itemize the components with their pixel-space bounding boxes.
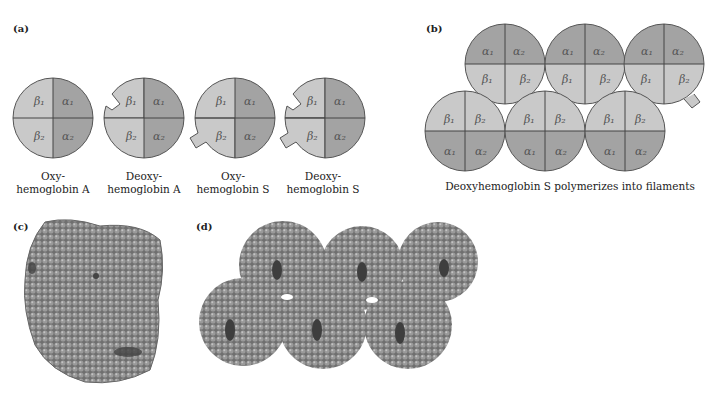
svg-text:β₁: β₁ <box>603 113 615 126</box>
svg-text:α₁: α₁ <box>641 45 653 58</box>
svg-text:α₁: α₁ <box>62 95 74 108</box>
svg-text:α₁: α₁ <box>562 45 574 58</box>
deoxyhemoglobin-a-diagram: β₁α₁ β₂α₂ <box>104 78 184 158</box>
svg-text:α₂: α₂ <box>62 130 74 143</box>
svg-text:α₂: α₂ <box>244 130 256 143</box>
hemoglobin-diagram: β₁α₁ β₂α₂ β₁α₁ β₂α₂ β₁α₁ β₂α₂ β₁α₁ β₂α₂ <box>0 0 720 401</box>
space-filling-model-fiber <box>199 221 478 369</box>
svg-text:β₁: β₁ <box>523 113 535 126</box>
svg-text:β₁: β₁ <box>443 113 455 126</box>
svg-text:α₁: α₁ <box>334 95 346 108</box>
deoxyhemoglobin-s-diagram: β₁α₁ β₂α₂ <box>280 78 365 158</box>
svg-text:α₁: α₁ <box>444 145 456 158</box>
svg-text:α₂: α₂ <box>555 145 567 158</box>
svg-text:β₂: β₂ <box>599 73 611 86</box>
svg-text:α₁: α₁ <box>482 45 494 58</box>
svg-text:β₁: β₁ <box>215 95 227 108</box>
caption-filament: Deoxyhemoglobin S polymerizes into filam… <box>440 180 700 193</box>
oxyhemoglobin-s-diagram: β₁α₁ β₂α₂ <box>190 78 275 158</box>
svg-text:β₁: β₁ <box>561 73 573 86</box>
svg-text:β₂: β₂ <box>634 113 646 126</box>
svg-text:β₂: β₂ <box>678 73 690 86</box>
svg-text:α₂: α₂ <box>635 145 647 158</box>
svg-text:β₁: β₁ <box>33 95 45 108</box>
svg-text:β₂: β₂ <box>33 130 45 143</box>
caption-oxyhemoglobin-a: Oxy- hemoglobin A <box>8 170 98 196</box>
svg-text:β₂: β₂ <box>125 130 137 143</box>
caption-oxyhemoglobin-s: Oxy- hemoglobin S <box>188 170 278 196</box>
svg-text:α₂: α₂ <box>153 130 165 143</box>
svg-text:β₂: β₂ <box>215 130 227 143</box>
space-filling-model-single <box>24 220 162 383</box>
svg-text:β₁: β₁ <box>481 73 493 86</box>
svg-text:α₂: α₂ <box>672 45 684 58</box>
svg-text:α₁: α₁ <box>604 145 616 158</box>
svg-text:β₂: β₂ <box>306 130 318 143</box>
svg-text:β₁: β₁ <box>306 95 318 108</box>
svg-text:β₂: β₂ <box>474 113 486 126</box>
filament-top-row: α₁α₂ β₁β₂ α₁α₂ β₁β₂ α₁α₂ β₁β₂ <box>465 24 704 108</box>
svg-text:α₂: α₂ <box>475 145 487 158</box>
svg-text:β₂: β₂ <box>554 113 566 126</box>
svg-text:α₂: α₂ <box>593 45 605 58</box>
svg-text:α₁: α₁ <box>153 95 165 108</box>
svg-text:α₁: α₁ <box>244 95 256 108</box>
svg-text:β₁: β₁ <box>640 73 652 86</box>
caption-deoxyhemoglobin-s: Deoxy- hemoglobin S <box>278 170 368 196</box>
svg-text:β₂: β₂ <box>519 73 531 86</box>
svg-text:α₂: α₂ <box>334 130 346 143</box>
caption-deoxyhemoglobin-a: Deoxy- hemoglobin A <box>99 170 189 196</box>
oxyhemoglobin-a-diagram: β₁α₁ β₂α₂ <box>13 78 93 158</box>
filament-bottom-row: β₁β₂ α₁α₂ β₁β₂ α₁α₂ β₁β₂ α₁α₂ <box>425 91 665 171</box>
svg-text:α₂: α₂ <box>513 45 525 58</box>
svg-text:α₁: α₁ <box>524 145 536 158</box>
svg-text:β₁: β₁ <box>125 95 137 108</box>
